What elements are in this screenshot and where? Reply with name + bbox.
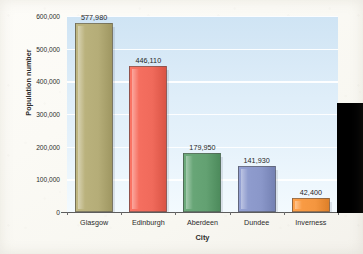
x-axis-tick-label: Aberdeen (187, 218, 218, 227)
bar-edinburgh (129, 66, 167, 212)
y-axis-tick-label: 500,000 (16, 45, 60, 52)
y-axis-tick-labels: 0100,000200,000300,000400,000500,000600,… (20, 0, 64, 254)
bar-value-label: 179,950 (189, 143, 215, 152)
bar-slot (230, 16, 284, 212)
x-axis-tick-label: Inverness (295, 218, 326, 227)
bar-glasgow (75, 23, 113, 212)
x-axis-tick-label: Edinburgh (132, 218, 165, 227)
bar-highlight (241, 169, 248, 209)
bar-aberdeen (183, 153, 221, 212)
x-axis-tick-mark (121, 212, 122, 215)
bar-drop-shadow (220, 157, 223, 212)
bar-value-label: 141,930 (244, 156, 270, 165)
bar-drop-shadow (112, 27, 115, 212)
bar-highlight (78, 26, 85, 209)
bar-highlight (132, 69, 139, 209)
bar-slot (175, 16, 229, 212)
bar-series (67, 16, 338, 212)
x-axis-title: City (67, 233, 338, 242)
black-overlay-block (337, 103, 363, 213)
x-axis-tick-mark (67, 212, 68, 215)
bar-slot (284, 16, 338, 212)
bar-value-label: 577,980 (81, 13, 107, 22)
bar-value-label: 446,110 (135, 56, 161, 65)
y-axis-tick-label: 300,000 (16, 111, 60, 118)
bar-slot (121, 16, 175, 212)
y-axis-tick-label: 0 (16, 209, 60, 216)
bar-highlight (295, 201, 302, 209)
bar-dundee (238, 166, 276, 212)
bar-value-label: 42,400 (300, 188, 322, 197)
y-axis-tick-label: 200,000 (16, 143, 60, 150)
bar-drop-shadow (329, 202, 332, 212)
x-axis-tick-label: Dundee (244, 218, 269, 227)
scanned-page: Population number 0100,000200,000300,000… (0, 0, 363, 254)
bar-drop-shadow (166, 70, 169, 212)
y-axis-tick-label: 400,000 (16, 78, 60, 85)
bar-drop-shadow (275, 170, 278, 212)
bar-highlight (186, 156, 193, 209)
x-axis-tick-mark (230, 212, 231, 215)
bar-inverness (292, 198, 330, 212)
y-axis-tick-label: 100,000 (16, 176, 60, 183)
x-axis-tick-mark (284, 212, 285, 215)
plot-area (67, 16, 338, 212)
bar-slot (67, 16, 121, 212)
x-axis-tick-mark (175, 212, 176, 215)
y-axis-tick-label: 600,000 (16, 13, 60, 20)
x-axis-tick-label: Glasgow (80, 218, 108, 227)
